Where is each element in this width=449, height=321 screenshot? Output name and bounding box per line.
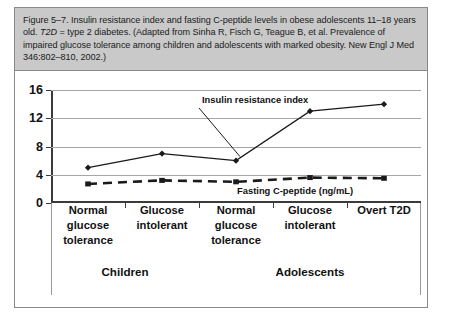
category-label-line: intolerant	[273, 218, 347, 233]
category-label-line: intolerant	[125, 218, 199, 233]
series-group	[85, 101, 387, 186]
data-point-0-0	[85, 165, 91, 171]
category-cell-4: Glucoseintolerant	[273, 203, 347, 265]
category-table: NormalglucosetoleranceGlucoseintolerantN…	[51, 203, 421, 295]
data-point-0-4	[381, 101, 387, 107]
category-label-line: tolerance	[199, 233, 273, 248]
category-cell-3: Normalglucosetolerance	[199, 203, 273, 265]
series-label-insulin-resistance-index: Insulin resistance index	[202, 94, 308, 105]
category-label-line: glucose	[199, 218, 273, 233]
y-tick-label-16: 16	[29, 83, 43, 97]
category-label-line: Glucose	[273, 203, 347, 218]
category-label-line: Overt T2D	[347, 203, 421, 218]
plot-area: 0481216 Insulin resistance index Fasting…	[15, 77, 429, 308]
series-label-fasting-c-peptide: Fasting C-peptide (ng/mL)	[237, 185, 353, 196]
category-label-line: Normal	[51, 203, 125, 218]
y-tick-label-0: 0	[36, 196, 43, 210]
group-label-row: ChildrenAdolescents	[51, 265, 421, 295]
category-cell-5: Overt T2D	[347, 203, 421, 265]
data-point-1-0	[85, 181, 91, 186]
data-point-0-1	[159, 150, 165, 156]
category-label-line: tolerance	[51, 233, 125, 248]
chart-axes: 0481216 Insulin resistance index Fasting…	[51, 90, 421, 203]
category-cell-2: Glucoseintolerant	[125, 203, 199, 265]
data-point-1-1	[159, 178, 165, 183]
data-point-1-2	[233, 179, 239, 184]
group-label-adolescents: Adolescents	[199, 265, 421, 295]
data-point-1-3	[307, 175, 313, 180]
y-tick-label-12: 12	[29, 111, 43, 125]
category-label-line: Normal	[199, 203, 273, 218]
figure-container: Figure 5–7. Insulin resistance index and…	[14, 7, 428, 308]
category-label-line: Glucose	[125, 203, 199, 218]
y-tick-label-4: 4	[36, 168, 43, 182]
category-label-row: NormalglucosetoleranceGlucoseintolerantN…	[51, 203, 421, 265]
data-point-1-4	[381, 176, 387, 181]
chart-series-svg	[51, 90, 421, 203]
caption-text-after: = type 2 diabetes. (Adapted from Sinha R…	[23, 27, 414, 62]
caption-abbreviation-t2d: T2D	[40, 27, 57, 37]
category-label-line: glucose	[51, 218, 125, 233]
y-tick-label-8: 8	[36, 140, 43, 154]
category-cell-1: Normalglucosetolerance	[51, 203, 125, 265]
annotation-leader-line	[199, 108, 240, 157]
figure-caption: Figure 5–7. Insulin resistance index and…	[15, 8, 427, 71]
group-label-children: Children	[51, 265, 199, 295]
